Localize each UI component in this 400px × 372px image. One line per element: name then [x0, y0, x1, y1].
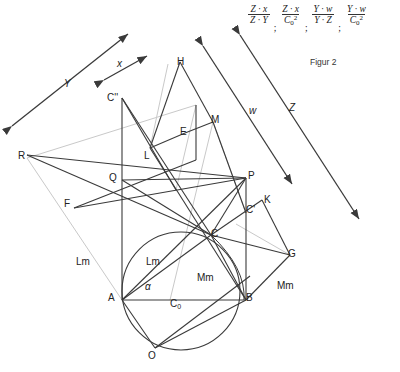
formula-term-3: Y · wY · Z	[312, 4, 335, 26]
formula-term-2: Z · xC02	[280, 4, 301, 28]
point-label-C: C	[211, 228, 218, 239]
arrow-label-x: x	[117, 58, 122, 69]
circle-c0	[122, 232, 240, 350]
point-label-G: G	[288, 248, 296, 259]
segment-label-C0: C0	[170, 298, 181, 310]
segment-label-Mm-mid: Mm	[197, 272, 214, 283]
arrow-label-Z: Z	[289, 102, 295, 113]
point-label-B: B	[246, 292, 253, 303]
point-label-P: P	[248, 170, 255, 181]
point-label-A: A	[108, 292, 115, 303]
point-label-F: F	[64, 198, 70, 209]
figure-caption: Figur 2	[310, 57, 336, 67]
arrow-label-Y: Y	[64, 78, 71, 89]
point-label-Q: Q	[109, 172, 117, 183]
formula-expression: Z · xZ · Y ; Z · xC02 ; Y · wY · Z ; Y ·…	[248, 4, 398, 34]
point-label-E: E	[180, 126, 187, 137]
point-label-M: M	[211, 114, 219, 125]
segment-label-Mm-right: Mm	[277, 280, 294, 291]
point-label-C1: C'	[246, 204, 255, 215]
geometry-figure	[0, 0, 400, 372]
point-label-K: K	[264, 194, 271, 205]
segment-label-Lm-left: Lm	[76, 256, 90, 267]
direction-arrow-x	[104, 56, 147, 80]
direction-arrow-Z	[240, 35, 359, 219]
point-label-C2: C''	[107, 92, 118, 103]
point-label-H: H	[177, 56, 184, 67]
formula-term-1: Z · xZ · Y	[248, 4, 270, 26]
arrow-label-w: w	[249, 105, 256, 116]
point-label-L: L	[144, 150, 150, 161]
point-label-O: O	[148, 350, 156, 361]
formula-term-4: Y · wC02	[345, 4, 368, 28]
point-label-R: R	[18, 150, 25, 161]
angle-label-alpha: α	[145, 281, 151, 292]
segment-label-Lm-mid: Lm	[146, 256, 160, 267]
